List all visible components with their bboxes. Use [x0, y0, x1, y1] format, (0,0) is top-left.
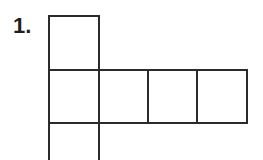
square-middle-2 [99, 70, 148, 123]
figure-root: 1. [0, 0, 263, 160]
cube-net-svg [0, 0, 263, 160]
square-bottom [49, 123, 99, 160]
square-middle-3 [148, 70, 197, 123]
square-middle-1 [49, 70, 99, 123]
cube-net-figure [0, 0, 263, 160]
square-top [49, 16, 99, 70]
square-middle-4 [197, 70, 247, 123]
